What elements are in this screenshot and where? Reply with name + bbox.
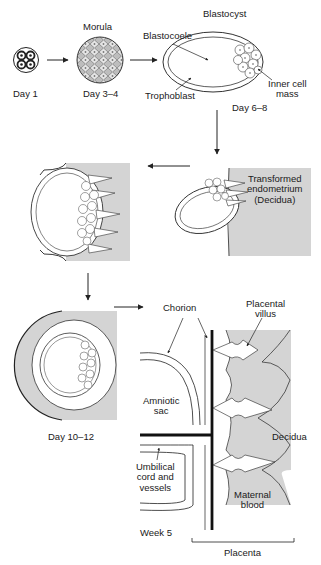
day-10-12-embryo-icon <box>14 311 117 420</box>
label-umbilical-cord: Umbilical cord and vessels <box>136 462 175 493</box>
label-placenta: Placenta <box>224 548 261 558</box>
label-blastocyst-day: Day 6–8 <box>232 103 267 113</box>
label-morula-title: Morula <box>83 22 112 32</box>
label-chorion: Chorion <box>163 303 196 313</box>
label-placental-villus: Placental villus <box>246 299 285 320</box>
label-amniotic-sac-line2: sac <box>143 406 179 416</box>
label-blastocyst-title: Blastocyst <box>203 9 246 19</box>
label-placental-villus-line2: villus <box>246 309 285 319</box>
label-blastocoele: Blastocoele <box>143 31 192 41</box>
label-week-5: Week 5 <box>140 528 172 538</box>
label-amniotic-sac: Amniotic sac <box>143 396 179 417</box>
label-inner-cell-mass: Inner cell mass <box>268 79 307 100</box>
label-endometrium: Transformed endometrium (Decidua) <box>247 174 302 205</box>
label-endometrium-line3: (Decidua) <box>247 195 302 205</box>
label-day-10-12: Day 10–12 <box>48 432 94 442</box>
morula-icon <box>77 37 123 83</box>
label-inner-cell-mass-line2: mass <box>268 89 307 99</box>
label-morula-day: Day 3–4 <box>83 89 118 99</box>
label-decidua: Decidua <box>272 432 307 442</box>
label-trophoblast: Trophoblast <box>145 91 195 101</box>
label-umbilical-line3: vessels <box>136 483 175 493</box>
four-cell-zygote-icon <box>14 48 39 73</box>
label-day-1: Day 1 <box>13 89 38 99</box>
label-maternal-blood: Maternal blood <box>234 490 271 511</box>
deeper-implantation-icon <box>31 163 130 261</box>
label-maternal-blood-line2: blood <box>234 500 271 510</box>
